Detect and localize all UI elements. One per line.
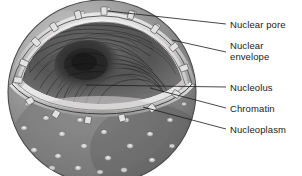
- label-nuclear-envelope: Nuclear envelope: [230, 40, 269, 62]
- nucleus-diagram-figure: Nuclear pore Nuclear envelope Nucleolus …: [0, 0, 302, 176]
- nucleolus: [54, 40, 122, 92]
- label-nuclear-pore: Nuclear pore: [230, 19, 286, 30]
- label-nuclear-envelope-line1: Nuclear: [230, 40, 263, 51]
- label-chromatin: Chromatin: [230, 103, 275, 114]
- label-nuclear-envelope-line2: envelope: [230, 51, 269, 62]
- label-nucleolus: Nucleolus: [230, 82, 273, 93]
- label-nucleoplasm: Nucleoplasm: [230, 124, 286, 135]
